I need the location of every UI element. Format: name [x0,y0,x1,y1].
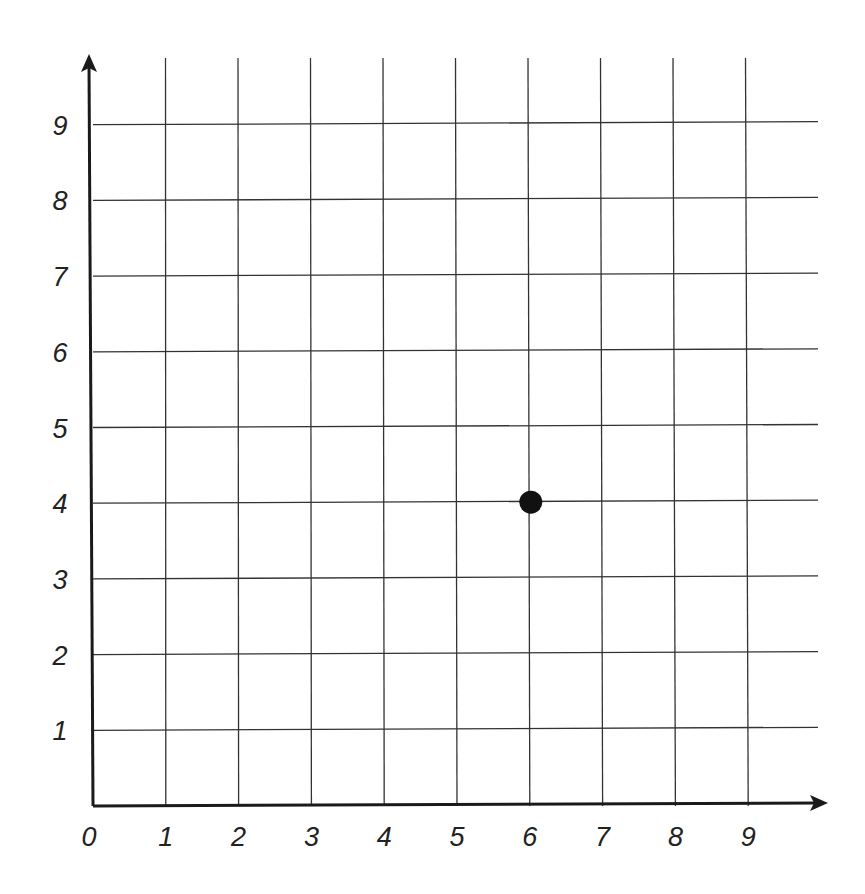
y-tick-label: 8 [52,186,67,216]
y-tick-labels: 123456789 [51,111,68,747]
y-tick-label: 3 [52,565,67,595]
grid-lines [93,58,818,806]
x-tick-label: 5 [449,822,465,852]
x-tick-label: 3 [304,822,319,852]
horizontal-grid-line [93,652,818,655]
x-tick-label: 2 [230,822,246,852]
vertical-grid-line [673,58,675,806]
x-axis [93,803,818,806]
data-points [519,491,542,514]
vertical-grid-line [601,58,603,806]
x-tick-label: 8 [668,822,683,852]
x-tick-label: 6 [522,822,538,852]
y-tick-label: 5 [52,414,68,444]
x-tick-label: 4 [377,822,392,852]
vertical-grid-line [746,58,749,806]
y-tick-label: 4 [52,489,67,519]
horizontal-grid-line [93,500,818,503]
y-tick-label: 7 [52,262,68,292]
vertical-grid-line [311,58,312,806]
y-tick-label: 6 [52,338,68,368]
horizontal-grid-line [93,425,818,428]
vertical-grid-line [456,58,458,806]
vertical-grid-line [238,58,239,806]
x-tick-labels: 0123456789 [81,822,755,852]
x-tick-label: 0 [81,822,96,852]
horizontal-grid-line [93,727,818,730]
y-tick-label: 1 [52,716,67,746]
y-axis [89,64,93,806]
horizontal-grid-line [93,576,818,579]
y-tick-label: 2 [51,641,67,671]
y-tick-label: 9 [52,111,67,141]
data-point [519,491,542,514]
x-tick-label: 1 [158,822,173,852]
x-tick-label: 9 [741,822,756,852]
coordinate-grid-chart: 0123456789 123456789 [0,0,865,894]
vertical-grid-line [383,58,384,806]
x-tick-label: 7 [595,822,611,852]
vertical-grid-line [528,58,530,806]
axes [81,54,828,811]
